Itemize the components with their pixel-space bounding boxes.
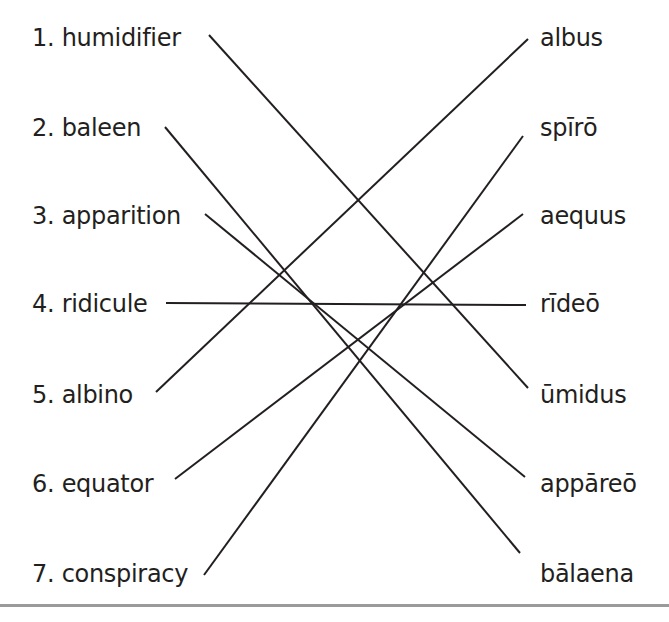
bottom-rule-divider [0,604,669,607]
line-apparition-appareo [205,214,525,477]
line-equator-aequus [175,214,523,479]
matching-lines [0,0,669,622]
line-conspiracy-spiro [204,136,523,575]
line-baleen-balaena [165,127,520,553]
line-humidifier-umidus [209,35,528,388]
line-ridicule-rideo [166,303,526,305]
